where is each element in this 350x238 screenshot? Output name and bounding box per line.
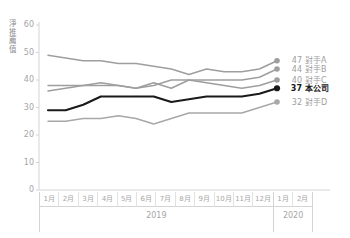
legend-label: 對手D — [305, 98, 327, 107]
x-axis: 1月2月3月4月5月6月7月8月9月10月11月12月20191月2月2020 — [39, 192, 313, 232]
series-line — [48, 80, 277, 91]
x-axis-month-label: 3月 — [79, 192, 98, 207]
x-axis-month-label: 8月 — [176, 192, 195, 207]
series-end-marker — [274, 99, 280, 105]
x-axis-month-label: 5月 — [118, 192, 137, 207]
x-axis-month-label: 9月 — [195, 192, 214, 207]
x-axis-month-row: 1月2月3月4月5月6月7月8月9月10月11月12月 — [40, 192, 273, 207]
x-axis-month-label: 1月 — [274, 192, 293, 207]
legend-value: 44 — [289, 65, 302, 74]
series-line — [48, 55, 277, 74]
x-axis-month-label: 4月 — [98, 192, 117, 207]
x-axis-month-label: 11月 — [234, 192, 253, 207]
x-axis-month-label: 1月 — [40, 192, 59, 207]
x-axis-month-label: 10月 — [215, 192, 234, 207]
x-axis-year-label: 2020 — [274, 207, 313, 223]
x-axis-year-group: 1月2月2020 — [274, 192, 314, 232]
x-axis-month-label: 7月 — [156, 192, 175, 207]
x-axis-year-group: 1月2月3月4月5月6月7月8月9月10月11月12月2019 — [40, 192, 274, 232]
x-axis-month-label: 6月 — [137, 192, 156, 207]
legend-label: 對手B — [305, 65, 327, 74]
series-line — [48, 88, 277, 110]
legend-value: 32 — [289, 98, 302, 107]
series-end-marker — [274, 58, 280, 64]
legend-label: 本公司 — [305, 84, 329, 93]
chart-container: 淨 推 薦 值 0102030405060 47對手A44對手B40對手C37本… — [0, 0, 350, 238]
series-end-marker — [274, 66, 280, 72]
x-axis-month-label: 2月 — [59, 192, 78, 207]
legend-value: 37 — [289, 84, 302, 93]
legend-item[interactable]: 37本公司 — [289, 84, 329, 93]
x-axis-month-row: 1月2月 — [274, 192, 313, 207]
legend-item[interactable]: 44對手B — [289, 65, 327, 74]
x-axis-month-label: 12月 — [253, 192, 272, 207]
x-axis-month-label: 2月 — [293, 192, 312, 207]
x-axis-year-label: 2019 — [40, 207, 273, 223]
series-end-marker — [274, 85, 280, 91]
series-end-marker — [274, 77, 280, 83]
legend-item[interactable]: 32對手D — [289, 98, 327, 107]
